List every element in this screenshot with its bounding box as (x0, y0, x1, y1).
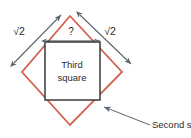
third-square-label-line1: Third (61, 59, 83, 70)
second-square-callout-label: Second square (152, 119, 191, 130)
second-square-callout-leader (104, 107, 150, 125)
sqrt2-right-label: √2 (104, 25, 116, 37)
third-square-shape (45, 42, 100, 100)
unknown-length-label: ? (68, 26, 74, 37)
sqrt2-left-label: √2 (13, 25, 25, 37)
geometry-figure: √2 √2 ? Third square Second square (0, 0, 191, 138)
figure-canvas: √2 √2 ? Third square Second square (0, 0, 191, 138)
third-square-label-line2: square (57, 72, 86, 83)
